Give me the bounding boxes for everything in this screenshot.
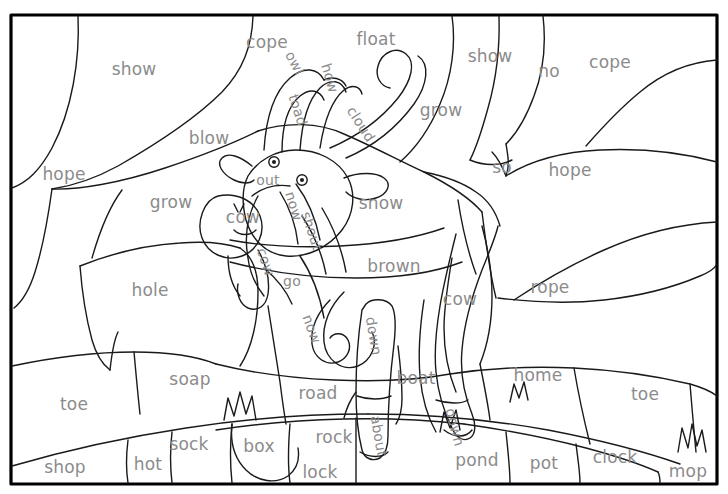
word-label: home: [514, 367, 563, 384]
word-label: grow: [150, 194, 193, 211]
word-label: road: [298, 385, 337, 402]
word-label: sock: [169, 436, 208, 453]
word-label: rock: [315, 429, 352, 446]
word-label: boat: [396, 370, 435, 387]
word-label: hope: [42, 166, 85, 183]
word-label: so: [492, 159, 512, 176]
word-label: toe: [60, 396, 88, 413]
word-label: out: [256, 173, 280, 187]
coloring-page: showcopefloatshownocopeowlhowtoadcloudgr…: [0, 0, 728, 494]
word-label: brown: [367, 258, 421, 275]
word-label: soap: [169, 371, 210, 388]
word-label: pot: [530, 455, 558, 472]
word-label: show: [112, 61, 157, 78]
word-label: go: [283, 274, 301, 288]
word-label: hot: [134, 456, 162, 473]
word-label: cow: [226, 209, 260, 226]
word-label: box: [243, 438, 274, 455]
word-label: lock: [302, 464, 337, 481]
word-label: hope: [548, 162, 591, 179]
word-label: cope: [246, 34, 288, 51]
cow-eye-left-pupil: [272, 160, 276, 164]
word-label: blow: [189, 130, 230, 147]
word-label: grow: [420, 102, 463, 119]
word-label: cope: [589, 54, 631, 71]
word-label: float: [356, 31, 395, 48]
word-label: pond: [455, 452, 499, 469]
word-label: shop: [44, 459, 86, 476]
word-label: snow: [359, 195, 404, 212]
line-art-illustration: [0, 0, 728, 494]
word-label: toe: [631, 386, 659, 403]
word-label: no: [538, 63, 560, 80]
cow-eye-right-pupil: [300, 178, 304, 182]
word-label: mop: [669, 463, 707, 480]
word-label: rope: [530, 279, 569, 296]
word-label: clock: [593, 449, 638, 466]
artboard: [0, 0, 728, 494]
word-label: cow: [443, 291, 477, 308]
word-label: show: [468, 48, 513, 65]
word-label: hole: [131, 282, 168, 299]
